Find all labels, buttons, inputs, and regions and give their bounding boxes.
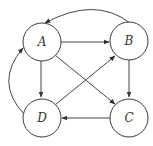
node-d: D xyxy=(23,99,61,137)
node-a: A xyxy=(23,23,61,61)
node-b-label: B xyxy=(124,34,134,48)
node-b: B xyxy=(110,22,148,60)
edge-b-to-a xyxy=(45,10,130,24)
edge-a-to-c xyxy=(55,55,115,104)
graph-diagram: A B C D xyxy=(0,0,153,146)
edge-d-to-a xyxy=(9,48,24,114)
edge-d-to-b xyxy=(55,56,115,105)
node-d-label: D xyxy=(36,111,47,125)
node-a-label: A xyxy=(37,35,47,49)
node-c-label: C xyxy=(124,111,133,125)
node-c: C xyxy=(110,99,148,137)
